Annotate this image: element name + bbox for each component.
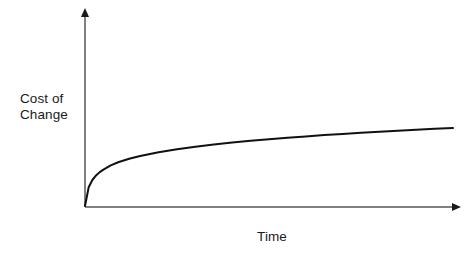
y-axis-arrow-icon xyxy=(81,8,89,17)
chart-figure: Cost of Change Time xyxy=(0,0,473,256)
chart-plot-area xyxy=(0,0,473,256)
x-axis-arrow-icon xyxy=(452,203,461,211)
x-axis-label: Time xyxy=(222,229,322,245)
cost-of-change-curve xyxy=(85,128,453,206)
y-axis-label: Cost of Change xyxy=(20,91,80,122)
